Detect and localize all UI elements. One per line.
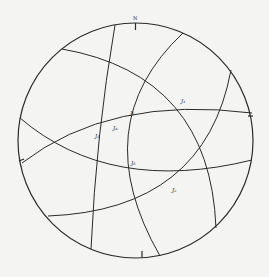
north-label: N: [133, 15, 138, 21]
great-circle-j6: [20, 118, 252, 171]
label-j5: J₅: [129, 110, 135, 117]
label-j4: J₄: [112, 125, 117, 132]
great-circle-j1: [62, 49, 216, 228]
stereonet-diagram: N J₁ J₅ J₄ J₃ J₆ J₂: [0, 0, 269, 277]
great-circle-j5: [22, 109, 252, 163]
label-j1: J₁: [180, 98, 185, 105]
label-j2: J₂: [171, 187, 176, 194]
label-j3: J₃: [94, 133, 99, 140]
label-j6: J₆: [130, 160, 136, 167]
great-circle-j4: [127, 33, 183, 256]
primitive-circle: [18, 23, 253, 258]
